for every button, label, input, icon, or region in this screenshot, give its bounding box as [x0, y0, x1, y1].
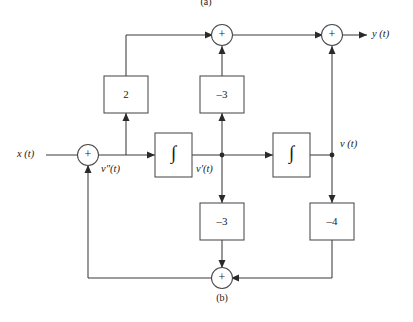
- block-gain-bottom-right-label: –4: [326, 215, 339, 227]
- arrowhead-gain-neg3-top-in: [219, 113, 226, 121]
- arrowhead-feedbacksummer-top-in: [219, 260, 226, 268]
- caption-top: (a): [200, 0, 211, 8]
- block-gain-bottom-mid-label: –3: [216, 215, 229, 227]
- block-gain-top-mid-label: –3: [216, 88, 229, 100]
- label-output-y: y (t): [371, 28, 390, 40]
- caption-bottom: (b): [216, 292, 228, 304]
- arrowhead-gain2-in: [123, 113, 130, 121]
- arrowhead-inputsummer-bottom-in: [85, 165, 92, 173]
- junction-dot-vprime: [220, 153, 225, 158]
- label-v: v (t): [340, 138, 358, 150]
- block-diagram: 2 –3 ∫ ∫ –3 –4 + + + + x (t) y (t) v″(t)…: [0, 0, 413, 322]
- arrowhead-integrator2-in: [265, 152, 273, 159]
- junction-dot-v: [330, 153, 335, 158]
- arrowhead-output-y: [359, 32, 367, 39]
- arrowhead-midsummer-bottom-in: [219, 46, 226, 54]
- label-input-x: x (t): [16, 148, 35, 160]
- label-v-prime: v′(t): [196, 163, 213, 175]
- label-v-double-prime: v″(t): [101, 163, 120, 175]
- summer-output-right-label: +: [329, 27, 336, 41]
- arrowhead-gain-neg3-bottom-in: [219, 195, 226, 203]
- arrowhead-rightsummer-bottom-in: [329, 46, 336, 54]
- summer-output-mid-label: +: [219, 27, 226, 41]
- summer-input-label: +: [85, 147, 92, 161]
- summer-feedback-label: +: [219, 270, 226, 284]
- arrowhead-gain-neg4-in: [329, 195, 336, 203]
- figure-canvas: 2 –3 ∫ ∫ –3 –4 + + + + x (t) y (t) v″(t)…: [0, 0, 413, 322]
- arrowhead-integrator1-in: [147, 152, 155, 159]
- block-gain-top-left-label: 2: [123, 88, 129, 100]
